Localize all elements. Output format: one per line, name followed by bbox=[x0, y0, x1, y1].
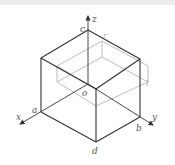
axes bbox=[20, 16, 153, 125]
vertex-label-c: c bbox=[80, 24, 85, 34]
outer-top-face bbox=[41, 30, 140, 89]
vertex-label-a: a bbox=[32, 105, 37, 115]
outer-bottom-left bbox=[41, 112, 96, 142]
outer-box bbox=[41, 30, 140, 142]
vertex-label-r: r bbox=[103, 31, 108, 40]
x-axis bbox=[20, 84, 88, 124]
inner-top-edge-right bbox=[102, 41, 148, 66]
z-axis-label: z bbox=[91, 14, 97, 24]
vertex-label-d: d bbox=[92, 146, 98, 156]
y-axis bbox=[88, 84, 153, 125]
y-axis-label: y bbox=[151, 112, 158, 122]
outer-bottom-right bbox=[96, 117, 140, 142]
isometric-box-diagram: z x y c r l o a b d bbox=[0, 0, 175, 165]
inner-box bbox=[57, 41, 148, 106]
origin-label: o bbox=[82, 88, 88, 98]
vertex-label-l: l bbox=[146, 79, 149, 88]
vertex-label-b: b bbox=[136, 123, 142, 133]
x-axis-label: x bbox=[16, 112, 21, 122]
